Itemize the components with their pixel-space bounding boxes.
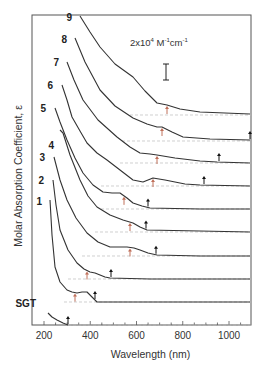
curve-label-7: 7 [53, 57, 59, 68]
curve-label-1: 1 [36, 196, 42, 207]
curve-6 [62, 85, 250, 186]
curve-label-4: 4 [48, 140, 54, 151]
onset-arrow-1-head [93, 291, 97, 294]
band-max-arrow-1-head [73, 294, 77, 297]
onset-arrow-3-head [154, 246, 158, 249]
onset-arrow-5-head [146, 199, 150, 202]
onset-arrow-7-head [217, 153, 221, 156]
band-max-arrow-7-head [155, 156, 159, 159]
band-max-arrow-9-head [165, 106, 169, 109]
curve-label-2: 2 [38, 175, 44, 186]
x-tick-label: 400 [82, 330, 99, 341]
x-tick-label: 1000 [218, 330, 241, 341]
x-axis-label: Wavelength (nm) [0, 348, 261, 360]
curve-9 [80, 16, 250, 114]
y-axis-label: Molar Absorption Coefficient, ε [12, 76, 24, 276]
curve-label-9: 9 [66, 12, 72, 23]
x-tick-label: 600 [128, 330, 145, 341]
onset-arrow-6-head [202, 176, 206, 179]
band-max-arrow-2-head [85, 272, 89, 275]
curve-1 [50, 200, 250, 302]
band-max-arrow-8-head [160, 128, 164, 131]
curve-4 [60, 130, 250, 232]
curve-label-8: 8 [61, 34, 67, 45]
onset-arrow-2-head [109, 269, 113, 272]
absorption-spectra-chart: 2004006008001000987654321SGT Molar Absor… [0, 0, 261, 369]
curve-2 [53, 180, 250, 279]
scale-bar-label: 2x104 M-1cm-1 [130, 37, 188, 48]
x-tick-label: 800 [174, 330, 191, 341]
curve-3 [54, 157, 250, 256]
curve-label-6: 6 [47, 80, 53, 91]
band-max-arrow-3-head [128, 248, 132, 251]
x-tick-label: 200 [36, 330, 53, 341]
onset-arrow-SGT-head [66, 316, 70, 319]
band-max-arrow-6-head [151, 179, 155, 182]
curve-8 [75, 38, 250, 140]
curve-SGT [48, 313, 68, 325]
curve-5 [55, 108, 250, 209]
curve-label-SGT: SGT [15, 298, 36, 309]
curve-label-3: 3 [39, 152, 45, 163]
onset-arrow-4-head [144, 221, 148, 224]
curve-label-5: 5 [40, 103, 46, 114]
plot-area: 2004006008001000987654321SGT [0, 0, 261, 369]
band-max-arrow-4-head [128, 223, 132, 226]
